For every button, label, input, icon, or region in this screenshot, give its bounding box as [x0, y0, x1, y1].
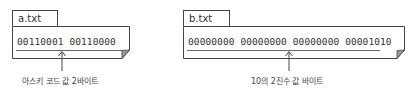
file-a-name: a.txt [18, 13, 41, 24]
file-b-body: 00000000 00000000 00000000 00001010 [183, 26, 405, 59]
file-a-content: 00110001 00110000 [17, 36, 116, 47]
file-a-annotation: 아스키 코드 값 2바이트 [22, 75, 98, 86]
file-b-annotation: 10의 2진수 값 바이트 [251, 75, 323, 86]
file-a-underline [16, 50, 122, 51]
file-a-body: 00110001 00110000 [12, 26, 130, 59]
file-b-name: b.txt [189, 13, 212, 24]
file-b-content: 00000000 00000000 00000000 00001010 [188, 36, 392, 47]
arrow-up-icon [57, 50, 67, 72]
arrow-up-icon [284, 50, 294, 72]
file-b-tab: b.txt [183, 10, 230, 26]
file-a-tab: a.txt [12, 10, 58, 26]
